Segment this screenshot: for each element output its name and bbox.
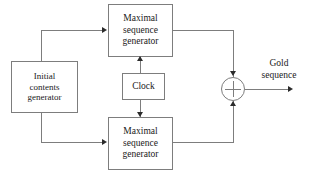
arrowhead-clock-to-bottom-msg bbox=[137, 112, 143, 117]
arrowhead-into-xor-top bbox=[230, 71, 236, 76]
wire-initial-to-bottom-horizontal bbox=[41, 142, 103, 143]
arrowhead-into-top-msg bbox=[102, 27, 107, 33]
block-maximal-sequence-generator-bottom-label: Maximal sequence generator bbox=[109, 126, 172, 161]
block-initial-contents-generator: Initial contents generator bbox=[11, 61, 78, 113]
block-initial-contents-generator-label: Initial contents generator bbox=[12, 71, 77, 104]
msg-top-line-2: sequence bbox=[109, 25, 172, 37]
label-gold-sequence: Gold sequence bbox=[252, 58, 306, 81]
block-clock-label: Clock bbox=[132, 81, 155, 93]
wire-initial-to-bottom-vertical bbox=[41, 113, 42, 143]
msg-top-line-3: generator bbox=[109, 36, 172, 48]
arrowhead-gold-sequence-output bbox=[288, 86, 293, 92]
block-clock: Clock bbox=[122, 73, 165, 100]
wire-gold-sequence-output bbox=[245, 89, 289, 90]
wire-top-msg-output-vertical bbox=[233, 30, 234, 77]
arrowhead-into-bottom-msg bbox=[102, 139, 107, 145]
block-maximal-sequence-generator-top: Maximal sequence generator bbox=[108, 4, 173, 57]
block-maximal-sequence-generator-bottom: Maximal sequence generator bbox=[108, 117, 173, 170]
msg-bottom-line-2: sequence bbox=[109, 138, 172, 150]
initial-line-1: Initial bbox=[12, 71, 77, 82]
gold-sequence-line-1: Gold bbox=[252, 58, 306, 70]
xor-vertical-bar bbox=[233, 81, 234, 97]
wire-bottom-msg-output-vertical bbox=[233, 101, 234, 142]
arrowhead-clock-to-top-msg bbox=[137, 56, 143, 61]
msg-bottom-line-1: Maximal bbox=[109, 126, 172, 138]
gold-sequence-line-2: sequence bbox=[252, 70, 306, 82]
arrowhead-into-xor-bottom bbox=[230, 101, 236, 106]
xor-adder-icon bbox=[221, 77, 245, 101]
wire-top-msg-output-horizontal bbox=[173, 30, 234, 31]
msg-top-line-1: Maximal bbox=[109, 13, 172, 25]
wire-initial-to-top-horizontal bbox=[41, 30, 103, 31]
initial-line-3: generator bbox=[12, 92, 77, 103]
msg-bottom-line-3: generator bbox=[109, 149, 172, 161]
initial-line-2: contents bbox=[12, 82, 77, 93]
wire-bottom-msg-output-horizontal bbox=[173, 142, 234, 143]
block-maximal-sequence-generator-top-label: Maximal sequence generator bbox=[109, 13, 172, 48]
gold-sequence-block-diagram: Initial contents generator Maximal seque… bbox=[0, 0, 310, 174]
wire-initial-to-top-vertical bbox=[41, 30, 42, 62]
